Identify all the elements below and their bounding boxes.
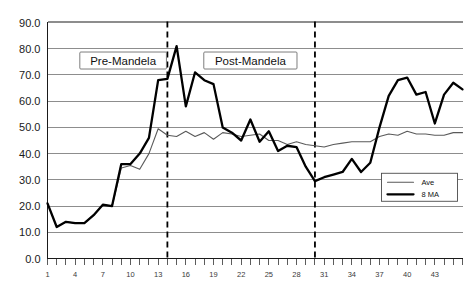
legend-box (382, 173, 458, 201)
x-axis-tick-label: 1 (45, 270, 49, 279)
annotation-labels-group: Pre-MandelaPost-Mandela (80, 52, 297, 69)
y-axis-tick-label: 70.0 (19, 69, 40, 81)
x-axis-tick-label: 16 (182, 270, 190, 279)
x-axis-tick-label: 37 (375, 270, 383, 279)
annotation-label: Post-Mandela (215, 55, 287, 67)
y-axis-tick-label: 20.0 (19, 200, 40, 212)
x-axis-tickmarks (48, 259, 463, 265)
x-axis-tick-label: 4 (73, 270, 77, 279)
y-axis-tick-label: 40.0 (19, 148, 40, 160)
x-axis-tick-label: 40 (403, 270, 411, 279)
x-axis-tick-label: 34 (348, 270, 356, 279)
x-axis-tick-label: 22 (237, 270, 245, 279)
x-axis-tick-label: 31 (320, 270, 328, 279)
y-axis-tick-label: 50.0 (19, 121, 40, 133)
x-axis-tick-label: 10 (126, 270, 134, 279)
y-axis-tick-labels: 0.010.020.030.040.050.060.070.080.090.0 (19, 17, 40, 265)
y-axis-tick-label: 30.0 (19, 174, 40, 186)
y-axis-tick-label: 10.0 (19, 226, 40, 238)
x-axis-tick-label: 43 (431, 270, 439, 279)
x-axis-tick-label: 25 (265, 270, 273, 279)
legend-label-ave: Ave (422, 178, 435, 187)
x-axis-tick-label: 19 (209, 270, 217, 279)
x-axis-tick-labels: 147101316192225283134374043 (45, 270, 439, 279)
chart-container: 0.010.020.030.040.050.060.070.080.090.0 … (0, 0, 471, 292)
y-axis-tick-label: 60.0 (19, 95, 40, 107)
annotation-label: Pre-Mandela (90, 55, 156, 67)
y-axis-tick-label: 0.0 (25, 253, 40, 265)
x-axis-tick-label: 13 (154, 270, 162, 279)
y-axis-tick-label: 80.0 (19, 43, 40, 55)
x-axis-tick-label: 28 (292, 270, 300, 279)
x-axis-tick-label: 7 (101, 270, 105, 279)
legend-label-8-ma: 8 MA (422, 190, 440, 199)
line-chart: 0.010.020.030.040.050.060.070.080.090.0 … (0, 0, 471, 292)
y-axis-tick-label: 90.0 (19, 17, 40, 29)
chart-legend: Ave8 MA (382, 173, 458, 201)
